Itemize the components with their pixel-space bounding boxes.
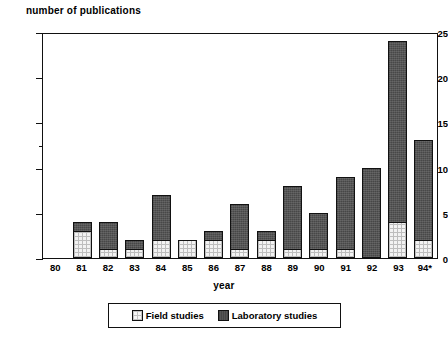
x-axis-tick-label: 84	[148, 262, 174, 273]
bar-segment-field-studies	[283, 249, 302, 258]
y-axis-tick	[36, 78, 43, 79]
bars-layer	[43, 34, 437, 258]
bar-group	[174, 34, 200, 258]
bar-group	[306, 34, 332, 258]
bar-stack	[73, 222, 92, 258]
y-axis-tick-label: 20	[416, 73, 448, 84]
bar-segment-laboratory-studies	[309, 213, 328, 249]
bar-group	[384, 34, 410, 258]
x-axis-tick-label: 86	[200, 262, 226, 273]
y-axis-minor-tick	[39, 146, 43, 147]
x-axis-tick-labels: 808182838485868788899091929394*	[42, 262, 438, 273]
bar-stack	[414, 140, 433, 258]
bar-segment-field-studies	[178, 240, 197, 258]
y-axis-tick	[36, 123, 43, 124]
bar-stack	[388, 41, 407, 258]
bar-group	[253, 34, 279, 258]
bar-segment-field-studies	[125, 249, 144, 258]
x-axis-tick-label: 89	[280, 262, 306, 273]
bar-group	[122, 34, 148, 258]
x-axis-tick-label: 83	[121, 262, 147, 273]
bar-segment-field-studies	[204, 240, 223, 258]
legend-label-laboratory-studies: Laboratory studies	[232, 310, 318, 321]
publications-bar-chart: number of publications 0510152025 808182…	[0, 0, 448, 348]
legend-entry-laboratory-studies: Laboratory studies	[218, 310, 318, 321]
bar-segment-laboratory-studies	[152, 195, 171, 240]
x-axis-tick-label: 90	[306, 262, 332, 273]
bar-segment-laboratory-studies	[362, 168, 381, 258]
x-axis-tick-label: 85	[174, 262, 200, 273]
x-axis-tick-label: 88	[253, 262, 279, 273]
bar-segment-laboratory-studies	[204, 231, 223, 240]
bar-segment-field-studies	[230, 249, 249, 258]
bar-group	[332, 34, 358, 258]
bar-segment-laboratory-studies	[414, 140, 433, 239]
bar-segment-field-studies	[309, 249, 328, 258]
legend-entry-field-studies: Field studies	[132, 310, 204, 321]
bar-segment-field-studies	[388, 222, 407, 258]
bar-stack	[152, 195, 171, 258]
x-axis-tick-label: 80	[42, 262, 68, 273]
y-axis-tick-label: 5	[416, 208, 448, 219]
bar-segment-laboratory-studies	[125, 240, 144, 249]
bar-stack	[230, 204, 249, 258]
bar-group	[227, 34, 253, 258]
y-axis-caption: number of publications	[26, 5, 141, 16]
x-axis-tick-label: 94*	[412, 262, 438, 273]
laboratory-swatch-icon	[218, 310, 229, 321]
bar-segment-field-studies	[152, 240, 171, 258]
bar-group	[96, 34, 122, 258]
y-axis-tick-label: 15	[416, 118, 448, 129]
bar-stack	[309, 213, 328, 258]
bar-segment-laboratory-studies	[230, 204, 249, 249]
y-axis-tick	[36, 169, 43, 170]
bar-group	[279, 34, 305, 258]
bar-group	[201, 34, 227, 258]
x-axis-caption: year	[0, 280, 448, 291]
y-axis-tick	[36, 33, 43, 34]
y-axis-tick-label: 10	[416, 163, 448, 174]
x-axis-tick-label: 91	[332, 262, 358, 273]
field-swatch-icon	[132, 310, 143, 321]
bar-segment-laboratory-studies	[336, 177, 355, 249]
plot-area	[42, 33, 438, 259]
bar-stack	[99, 222, 118, 258]
bar-stack	[125, 240, 144, 258]
x-axis-tick-label: 81	[68, 262, 94, 273]
legend-label-field-studies: Field studies	[146, 310, 204, 321]
bar-group	[358, 34, 384, 258]
bar-segment-field-studies	[336, 249, 355, 258]
bar-segment-field-studies	[99, 249, 118, 258]
bar-stack	[204, 231, 223, 258]
bar-segment-laboratory-studies	[283, 186, 302, 249]
bar-segment-laboratory-studies	[73, 222, 92, 231]
x-axis-tick-label: 92	[359, 262, 385, 273]
chart-legend: Field studies Laboratory studies	[108, 303, 341, 328]
x-axis-tick-label: 93	[385, 262, 411, 273]
bar-group	[148, 34, 174, 258]
bar-group	[43, 34, 69, 258]
bar-group	[411, 34, 437, 258]
bar-group	[69, 34, 95, 258]
x-axis-tick-label: 87	[227, 262, 253, 273]
bar-segment-field-studies	[257, 240, 276, 258]
bar-stack	[362, 168, 381, 258]
bar-segment-field-studies	[73, 231, 92, 258]
bar-stack	[178, 240, 197, 258]
bar-segment-laboratory-studies	[257, 231, 276, 240]
bar-stack	[336, 177, 355, 258]
bar-stack	[283, 186, 302, 258]
y-axis-tick	[36, 259, 43, 260]
bar-segment-laboratory-studies	[99, 222, 118, 249]
y-axis-tick-label: 25	[416, 28, 448, 39]
y-axis-tick	[36, 214, 43, 215]
bar-segment-laboratory-studies	[388, 41, 407, 222]
x-axis-tick-label: 82	[95, 262, 121, 273]
bar-stack	[257, 231, 276, 258]
